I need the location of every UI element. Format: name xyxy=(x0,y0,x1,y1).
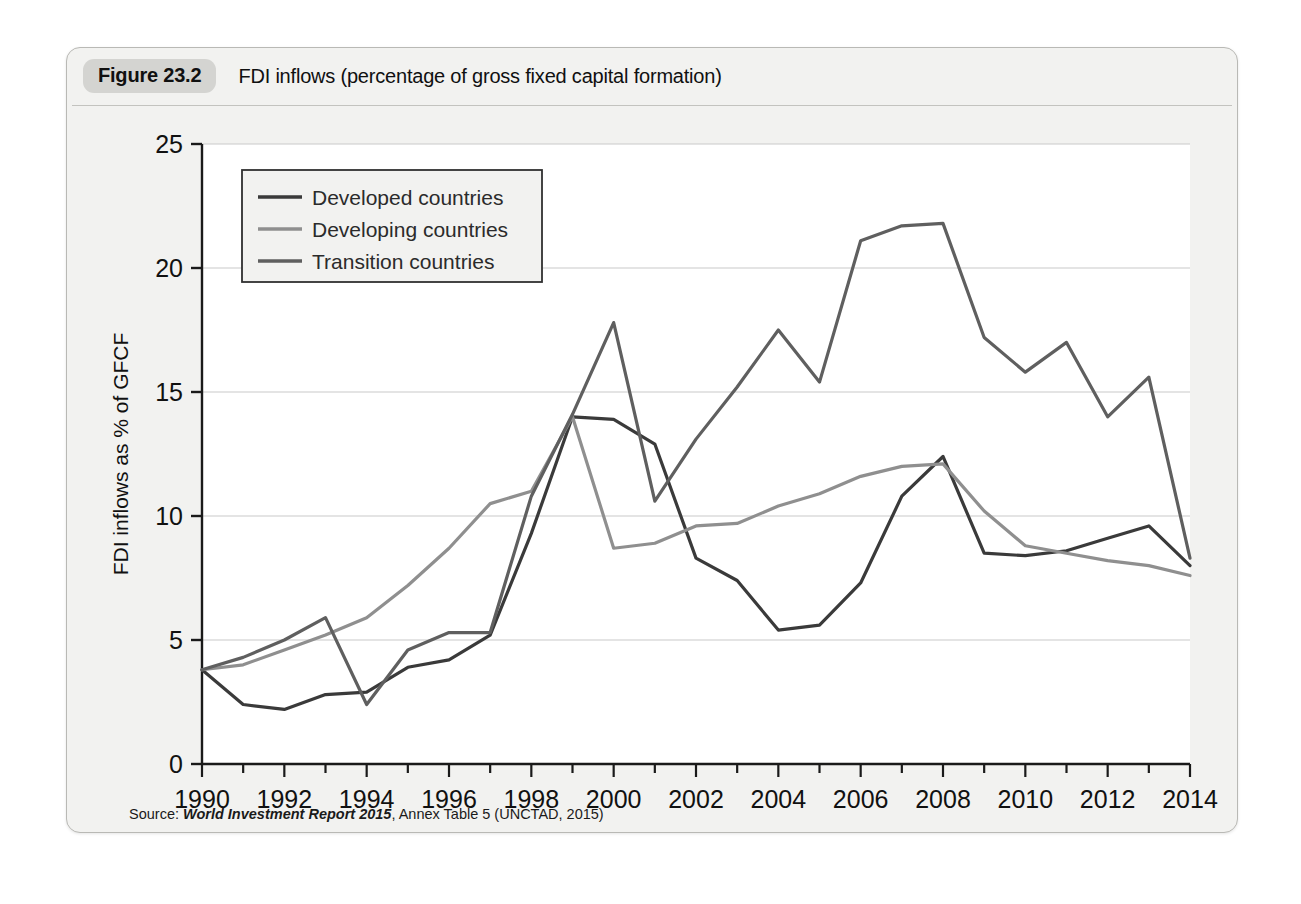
figure-caption-bar: Figure 23.2 FDI inflows (percentage of g… xyxy=(67,48,1237,104)
legend-label: Developing countries xyxy=(312,218,508,241)
figure-number-badge: Figure 23.2 xyxy=(83,59,216,93)
y-tick-label: 25 xyxy=(155,130,183,158)
plot-panel: 0510152025 19901992199419961998200020022… xyxy=(72,105,1232,827)
source-prefix: Source: xyxy=(129,806,183,822)
y-tick-label: 10 xyxy=(155,502,183,530)
figure-card: Figure 23.2 FDI inflows (percentage of g… xyxy=(66,47,1238,833)
x-tick-label: 2008 xyxy=(915,785,971,813)
y-tick-label: 0 xyxy=(169,750,183,778)
y-axis-title: FDI inflows as % of GFCF xyxy=(109,333,132,576)
y-tick-label: 5 xyxy=(169,626,183,654)
figure-caption-title: FDI inflows (percentage of gross fixed c… xyxy=(238,65,721,88)
y-tick-label: 20 xyxy=(155,254,183,282)
source-suffix: , Annex Table 5 (UNCTAD, 2015) xyxy=(391,806,603,822)
line-chart: 0510152025 19901992199419961998200020022… xyxy=(72,106,1232,828)
x-tick-label: 2012 xyxy=(1080,785,1136,813)
x-tick-label: 2010 xyxy=(998,785,1054,813)
figure-source-note: Source: World Investment Report 2015, An… xyxy=(129,806,604,822)
chart-legend: Developed countriesDeveloping countriesT… xyxy=(242,170,542,282)
y-axis-ticks: 0510152025 xyxy=(155,130,202,778)
y-axis-title-text: FDI inflows as % of GFCF xyxy=(109,333,132,576)
x-tick-label: 2014 xyxy=(1162,785,1218,813)
x-tick-label: 2002 xyxy=(668,785,724,813)
legend-label: Transition countries xyxy=(312,250,494,273)
x-tick-label: 2006 xyxy=(833,785,889,813)
x-tick-label: 2004 xyxy=(751,785,807,813)
legend-label: Developed countries xyxy=(312,186,503,209)
y-tick-label: 15 xyxy=(155,378,183,406)
source-publication: World Investment Report 2015 xyxy=(183,806,391,822)
